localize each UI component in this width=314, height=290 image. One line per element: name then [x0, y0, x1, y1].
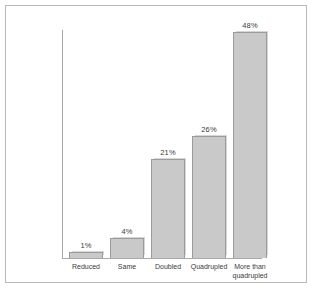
bar-doubled[interactable]	[151, 159, 185, 258]
y-axis-line	[62, 30, 63, 258]
bar-value-reduced: 1%	[61, 241, 111, 250]
bar-more-than-quadrupled[interactable]	[233, 32, 267, 258]
category-label-line-2: quadrupled	[232, 272, 267, 279]
bar-value-quadrupled: 26%	[184, 125, 234, 134]
bar-same[interactable]	[110, 238, 144, 258]
bar-reduced[interactable]	[69, 252, 103, 258]
chart-page: 1% 4% 21% 26% 48% Reduced Same Doubled Q…	[0, 0, 314, 290]
x-axis-baseline	[62, 258, 262, 259]
category-label-line-1: More than	[234, 263, 266, 270]
bar-value-doubled: 21%	[143, 148, 193, 157]
bar-value-same: 4%	[102, 227, 152, 236]
bar-quadrupled[interactable]	[192, 136, 226, 258]
bar-chart-plot-area: 1% 4% 21% 26% 48% Reduced Same Doubled Q…	[0, 0, 314, 290]
category-label-more-than-quadrupled: More than quadrupled	[223, 263, 277, 280]
bar-value-more-than-quadrupled: 48%	[225, 21, 275, 30]
